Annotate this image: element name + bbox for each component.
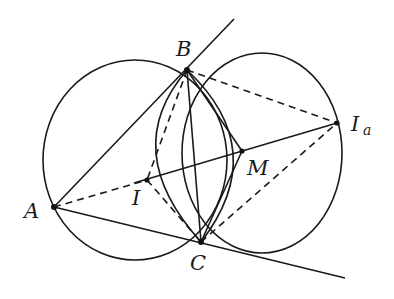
label-A: A [22, 199, 39, 223]
dashed-C-Ia [201, 123, 337, 242]
line-A-B-extended [54, 19, 234, 207]
segment-M-C [201, 151, 242, 242]
label-M: M [246, 156, 269, 180]
point-M [239, 148, 244, 153]
dashed-B-I [147, 70, 187, 180]
label-I: I [131, 186, 141, 210]
point-Ia [334, 120, 339, 125]
label-Ia: I [350, 112, 360, 136]
label-Ia-subscript: a [363, 122, 371, 138]
point-B [184, 67, 190, 73]
point-C [198, 239, 204, 245]
segment-B-C [187, 70, 201, 242]
segment-B-M [187, 70, 242, 151]
point-I [144, 177, 149, 182]
label-C: C [190, 251, 206, 275]
point-A [51, 204, 57, 210]
geometry-diagram: A B C I M I a [0, 0, 394, 299]
label-B: B [175, 37, 191, 61]
